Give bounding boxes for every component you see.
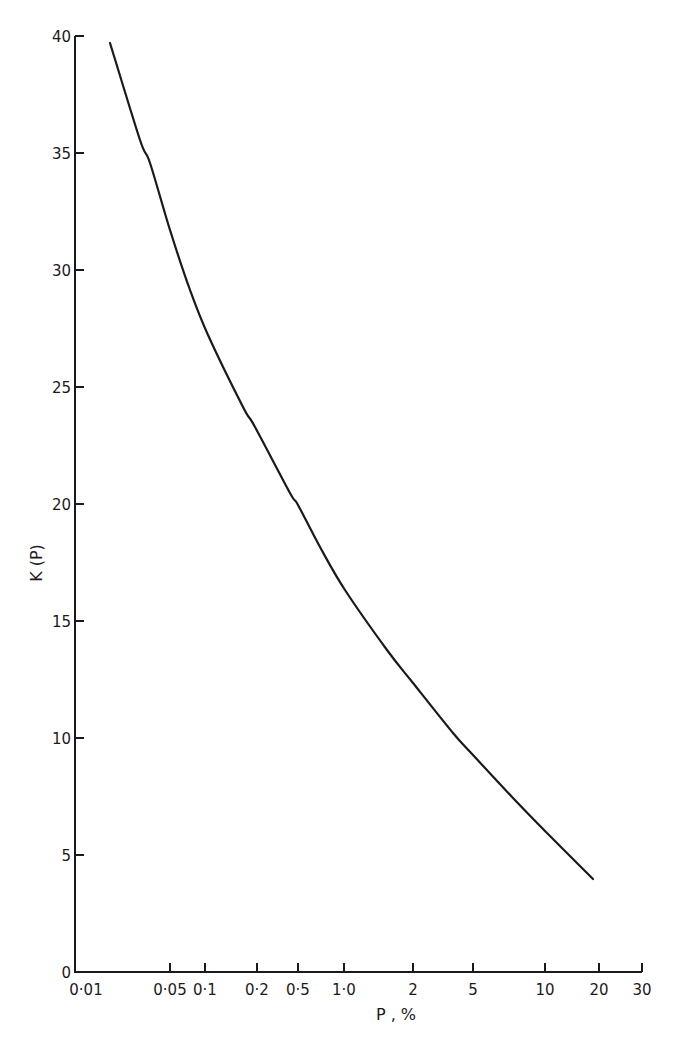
y-tick-label: 5 [61, 847, 71, 865]
k-p-curve [110, 43, 593, 879]
x-tick-label: 30 [632, 981, 651, 999]
y-tick-label: 10 [52, 730, 71, 748]
y-tick-label: 0 [61, 964, 71, 982]
x-axis-ticks: 0·010·050·10·20·51·025102030 [69, 963, 651, 999]
y-tick-label: 15 [52, 613, 71, 631]
y-tick-label: 20 [52, 496, 71, 514]
x-tick-label: 10 [535, 981, 554, 999]
y-tick-label: 30 [52, 262, 71, 280]
y-tick-label: 35 [52, 145, 71, 163]
x-tick-label: 20 [589, 981, 608, 999]
x-tick-label: 5 [468, 981, 478, 999]
x-tick-label: 2 [408, 981, 418, 999]
x-tick-label: 0·1 [193, 981, 217, 999]
x-tick-label: 0·2 [245, 981, 269, 999]
x-tick-label: 0·01 [69, 981, 102, 999]
y-tick-label: 25 [52, 379, 71, 397]
x-tick-label: 0·05 [153, 981, 186, 999]
x-axis-label: P , % [376, 1005, 416, 1024]
y-axis-ticks: 0510152025303540 [52, 28, 84, 982]
y-axis-label: K (P) [27, 544, 46, 582]
y-tick-label: 40 [52, 28, 71, 46]
x-tick-label: 1·0 [332, 981, 356, 999]
axes [74, 36, 642, 972]
x-tick-label: 0·5 [286, 981, 310, 999]
k-of-p-chart: 0510152025303540 0·010·050·10·20·51·0251… [0, 0, 677, 1048]
